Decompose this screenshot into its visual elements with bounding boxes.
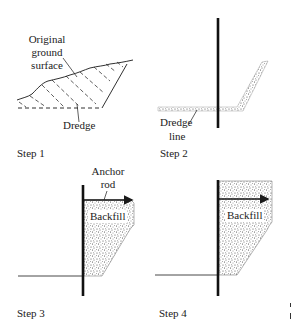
edge-artifact (290, 303, 291, 307)
caption-step-2: Step 2 (160, 148, 188, 159)
caption-step-3: Step 3 (17, 308, 45, 319)
anchor-rod-leader (104, 191, 107, 200)
label-line: Dredge (160, 117, 192, 128)
dredge-band (158, 61, 268, 111)
step2-panel (158, 18, 268, 128)
label-line: surface (22, 60, 72, 71)
label-backfill: Backfill (88, 210, 127, 223)
label-original-ground-surface: Original ground surface (22, 34, 72, 71)
caption-step-1: Step 1 (17, 148, 45, 159)
label-dredge: Dredge (63, 120, 95, 131)
label-line: ground (22, 47, 72, 58)
step3-panel (18, 185, 134, 296)
label-anchor-rod: Anchor rod (88, 166, 128, 190)
backfill-region (219, 181, 272, 275)
label-line: Anchor (88, 166, 128, 177)
label-line: rod (88, 179, 128, 190)
caption-step-4: Step 4 (159, 308, 187, 319)
dredge-slope-line (102, 64, 127, 108)
label-line: line (160, 131, 192, 142)
label-backfill: Backfill (225, 209, 264, 222)
edge-artifact (290, 313, 291, 319)
step4-panel (155, 180, 272, 296)
label-dredge-line: Dredge line (160, 117, 192, 142)
label-line: Original (22, 34, 72, 45)
